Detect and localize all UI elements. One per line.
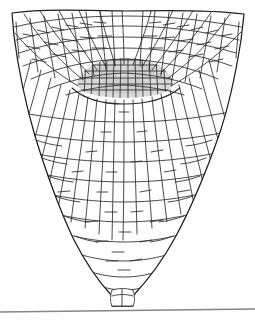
apex-knob — [111, 289, 135, 307]
cell-diagram-canvas — [0, 0, 255, 322]
root-apex-figure — [0, 0, 255, 322]
tissue-outline — [12, 10, 244, 306]
divider-rule — [0, 309, 255, 312]
